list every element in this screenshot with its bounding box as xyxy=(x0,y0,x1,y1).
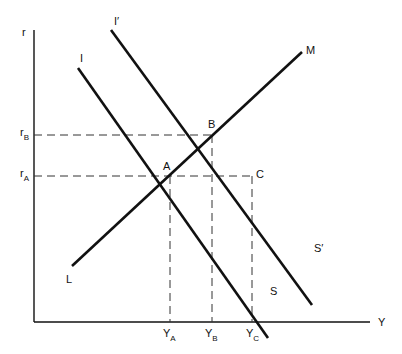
tick-yc: YC xyxy=(246,327,259,343)
point-b-label: B xyxy=(208,118,215,130)
lm-curve xyxy=(72,52,302,266)
x-axis-label: Y xyxy=(378,316,386,328)
point-c-label: C xyxy=(256,168,264,180)
is-lm-diagram: r Y I S I′ S′ L M A B C rB rA YA YB YC xyxy=(0,0,402,354)
lm-end-label: M xyxy=(306,44,315,56)
tick-ya: YA xyxy=(163,327,176,343)
is-start-label: I xyxy=(80,52,83,64)
tick-ra: rA xyxy=(20,167,30,183)
tick-rb: rB xyxy=(20,126,29,142)
is-shifted-start-label: I′ xyxy=(114,15,119,27)
y-axis-label: r xyxy=(22,26,26,38)
point-a-label: A xyxy=(163,160,171,172)
is-end-label: S xyxy=(270,285,277,297)
lm-start-label: L xyxy=(66,273,72,285)
tick-yb: YB xyxy=(205,327,218,343)
is-shifted-end-label: S′ xyxy=(314,242,323,254)
